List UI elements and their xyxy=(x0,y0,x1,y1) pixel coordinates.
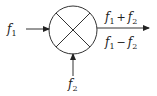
mixer-diagram: f1 f2 f1+f2 f1−f2 xyxy=(0,0,157,96)
output-sum-label: f1+f2 xyxy=(104,10,137,26)
input-f2-label: f2 xyxy=(67,77,78,93)
input-f1-label: f1 xyxy=(6,22,17,38)
mixer-symbol xyxy=(49,6,97,54)
output-diff-label: f1−f2 xyxy=(104,35,137,51)
